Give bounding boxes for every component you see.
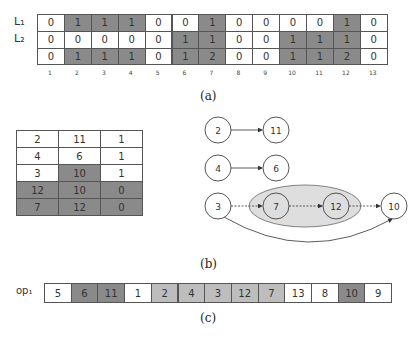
graph-node: 3 — [205, 193, 231, 219]
sequence-cell: 2 — [151, 283, 179, 303]
sequence-cell: 6 — [71, 283, 99, 303]
svg-text:6: 6 — [273, 164, 279, 174]
sequence-cell: 12 — [231, 283, 259, 303]
row-label-op1: op₁ — [16, 285, 32, 296]
graph-node: 4 — [205, 155, 231, 181]
sequence-cell: 4 — [178, 283, 206, 303]
sequence-cell: 11 — [97, 283, 125, 303]
sequence-cell: 13 — [284, 283, 312, 303]
sequence-cell: 9 — [364, 283, 392, 303]
caption-b: (b) — [200, 257, 217, 271]
sequence-cell: 1 — [124, 283, 152, 303]
caption-c: (c) — [200, 311, 216, 325]
sequence-cell: 5 — [44, 283, 72, 303]
sequence-cell: 3 — [204, 283, 232, 303]
graph-node: 6 — [263, 155, 289, 181]
svg-text:2: 2 — [215, 126, 221, 136]
sequence-cell: 8 — [311, 283, 339, 303]
svg-text:4: 4 — [215, 164, 221, 174]
svg-text:12: 12 — [330, 202, 341, 212]
graph-node: 2 — [205, 117, 231, 143]
graph-node: 11 — [263, 117, 289, 143]
sequence-cell: 10 — [338, 283, 366, 303]
svg-text:7: 7 — [273, 202, 279, 212]
svg-text:11: 11 — [270, 126, 281, 136]
sequence-cell: 7 — [258, 283, 286, 303]
svg-text:10: 10 — [388, 202, 400, 212]
graph-node: 10 — [381, 193, 407, 219]
svg-text:3: 3 — [215, 202, 221, 212]
